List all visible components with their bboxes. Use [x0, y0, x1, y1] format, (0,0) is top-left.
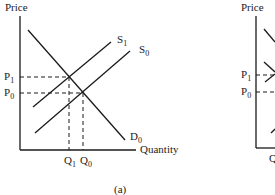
p1-label: P1 [4, 70, 14, 85]
demand-curve-d0 [28, 30, 125, 140]
y-axis-label-b: Price [241, 1, 264, 13]
p0-label: P0 [4, 86, 14, 101]
s1-label: S1 [117, 33, 127, 48]
x-axis-label: Quantity [140, 143, 179, 155]
curve-b4 [271, 129, 275, 133]
supply-demand-diagram: Price Quantity P1 P0 Q1 Q0 S1 S0 D0 (a) … [0, 0, 275, 195]
q0-label: Q0 [80, 154, 92, 169]
curve-b2 [264, 62, 275, 72]
curve-b1 [264, 29, 275, 42]
s0-label: S0 [139, 43, 149, 58]
panel-a-labels: Price Quantity P1 P0 Q1 Q0 S1 S0 D0 (a) [4, 1, 179, 195]
supply-curve-s0 [35, 51, 130, 133]
panel-b [256, 16, 275, 148]
q-label-b: Q [269, 152, 275, 164]
p1-label-b: P1 [241, 68, 251, 83]
supply-curve-s1 [33, 42, 111, 107]
q1-label: Q1 [64, 154, 76, 169]
d0-label: D0 [130, 130, 142, 145]
y-axis-label: Price [5, 1, 28, 13]
p0-label-b: P0 [241, 85, 251, 100]
panel-a-caption: (a) [114, 183, 127, 195]
panel-b-labels: Price P1 P0 Q [241, 1, 275, 164]
